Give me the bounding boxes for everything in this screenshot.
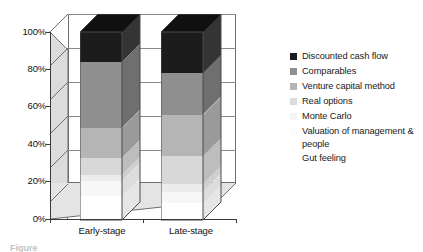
legend-item-real-options: Real options (290, 95, 423, 108)
legend-item-comparables: Comparables (290, 65, 423, 78)
segment-late-valuation-of-management (161, 192, 203, 203)
x-axis-label-late-stage: Late-stage (146, 226, 236, 236)
segment-late-real-options (161, 156, 203, 184)
segment-late-venture-capital-method (161, 115, 203, 156)
y-tick-100 (46, 32, 50, 33)
x-tick-left (50, 219, 51, 223)
legend-swatch-monte-carlo (290, 113, 297, 120)
segment-late-gut-feeling-side (203, 185, 222, 221)
y-axis-label-80-text: 80% (2, 64, 46, 74)
y-tick-80 (46, 69, 50, 70)
legend-item-gut-feeling: Gut feeling (290, 152, 423, 165)
segment-late-discounted-cash-flow (161, 32, 203, 73)
segment-late-monte-carlo (161, 184, 203, 192)
x-tick-right (236, 219, 237, 223)
legend-swatch-gut-feeling (290, 155, 297, 162)
legend-label-valuation-of-management: Valuation of management & people (302, 125, 423, 150)
legend-item-valuation-of-management: Valuation of management & people (290, 125, 423, 150)
legend-item-discounted-cash-flow: Discounted cash flow (290, 50, 423, 63)
legend-swatch-comparables (290, 68, 297, 75)
y-tick-40 (46, 144, 50, 145)
bar-early-stage (80, 32, 122, 220)
y-axis-label-0-text: 0% (2, 214, 46, 224)
legend-label-monte-carlo: Monte Carlo (302, 110, 352, 123)
bar-late-stage (161, 32, 203, 220)
y-axis-label-100-text: 100% (2, 27, 46, 37)
figure-stacked-column-chart: 100% 80% 60% 40% 20% 0% Early-stage Late… (0, 0, 423, 252)
y-axis (50, 32, 51, 220)
y-tick-20 (46, 181, 50, 182)
segment-early-real-options (80, 158, 122, 175)
figure-caption: Figure (10, 243, 423, 252)
legend-label-gut-feeling: Gut feeling (302, 152, 346, 165)
figure-caption-label: Figure (10, 243, 38, 252)
segment-early-gut-feeling-side (122, 178, 141, 221)
y-axis-label-20-text: 20% (2, 176, 46, 186)
legend-label-real-options: Real options (302, 95, 352, 108)
legend-label-venture-capital-method: Venture capital method (302, 80, 395, 93)
y-axis-label-60-text: 60% (2, 101, 46, 111)
x-tick-middle (143, 219, 144, 223)
segment-late-comparables (161, 73, 203, 114)
legend-item-venture-capital-method: Venture capital method (290, 80, 423, 93)
segment-early-discounted-cash-flow (80, 32, 122, 62)
segment-early-gut-feeling (80, 196, 122, 220)
legend-item-monte-carlo: Monte Carlo (290, 110, 423, 123)
chart-legend: Discounted cash flow Comparables Venture… (290, 50, 423, 167)
x-axis-label-early-stage: Early-stage (57, 226, 147, 236)
segment-early-valuation-of-management (80, 181, 122, 196)
legend-label-discounted-cash-flow: Discounted cash flow (302, 50, 388, 63)
legend-swatch-valuation-of-management (290, 128, 297, 135)
legend-swatch-venture-capital-method (290, 83, 297, 90)
y-tick-60 (46, 106, 50, 107)
legend-label-comparables: Comparables (302, 65, 356, 78)
segment-early-venture-capital-method (80, 128, 122, 158)
legend-swatch-discounted-cash-flow (290, 53, 297, 60)
segment-early-comparables (80, 62, 122, 128)
figure-caption-text: Figure (10, 243, 423, 252)
legend-swatch-real-options (290, 98, 297, 105)
y-axis-label-40-text: 40% (2, 139, 46, 149)
segment-late-gut-feeling (161, 203, 203, 220)
